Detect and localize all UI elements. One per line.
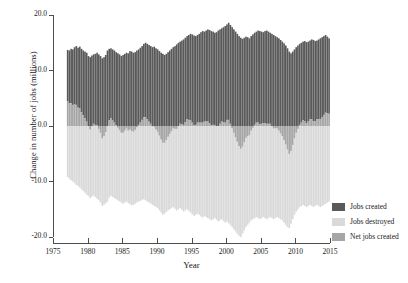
bar-jobs-created: [257, 31, 259, 123]
bar-jobs-destroyed: [155, 126, 157, 207]
bar-jobs-destroyed: [273, 126, 275, 219]
bar-jobs-created: [271, 34, 273, 126]
x-tick-label: 1980: [75, 247, 101, 256]
bar-jobs-destroyed: [119, 126, 121, 201]
bar-jobs-created: [143, 44, 145, 117]
y-tick-label-wrap: -10.0: [0, 177, 47, 187]
bar-net-jobs-created: [268, 124, 270, 126]
bar-jobs-destroyed: [79, 126, 81, 188]
bar-jobs-created: [301, 43, 303, 123]
bar-net-jobs-created: [166, 126, 168, 140]
bar-jobs-created: [69, 51, 71, 104]
bar-jobs-destroyed: [301, 126, 303, 206]
bar-net-jobs-created: [202, 123, 204, 126]
bar-jobs-destroyed: [304, 126, 306, 206]
bar-net-jobs-created: [328, 114, 330, 126]
legend-swatch: [332, 203, 345, 211]
bar-jobs-destroyed: [197, 126, 199, 214]
bar-jobs-created: [186, 36, 188, 119]
bar-jobs-destroyed: [230, 126, 232, 225]
bar-jobs-created: [311, 39, 313, 119]
bar-jobs-created: [86, 53, 88, 122]
bar-jobs-created: [240, 38, 242, 126]
bar-jobs-created: [254, 33, 256, 125]
bar-net-jobs-created: [294, 126, 296, 138]
bar-jobs-destroyed: [264, 126, 266, 218]
bar-net-jobs-created: [311, 119, 313, 126]
bar-net-jobs-created: [108, 120, 110, 126]
bar-jobs-destroyed: [256, 126, 258, 217]
bar-jobs-created: [157, 49, 159, 126]
bar-net-jobs-created: [192, 123, 194, 126]
bar-net-jobs-created: [321, 117, 323, 126]
bar-net-jobs-created: [266, 124, 268, 126]
bar-jobs-destroyed: [145, 126, 147, 200]
plot-area: [53, 15, 330, 237]
bar-jobs-destroyed: [138, 126, 140, 201]
bar-jobs-destroyed: [237, 126, 239, 234]
bar-jobs-destroyed: [127, 126, 129, 203]
bar-jobs-destroyed: [275, 126, 277, 218]
bar-jobs-created: [159, 51, 161, 126]
bar-net-jobs-created: [167, 126, 169, 137]
bar-net-jobs-created: [250, 126, 252, 130]
bar-jobs-created: [221, 28, 223, 121]
bar-jobs-destroyed: [174, 126, 176, 209]
bar-jobs-created: [249, 38, 251, 126]
bar-net-jobs-created: [209, 123, 211, 126]
bar-jobs-created: [224, 26, 226, 123]
bar-net-jobs-created: [224, 123, 226, 126]
x-tick-label: 2015: [317, 247, 343, 256]
bar-jobs-created: [81, 49, 83, 112]
bar-jobs-destroyed: [114, 126, 116, 198]
bar-jobs-destroyed: [96, 126, 98, 199]
bar-jobs-destroyed: [221, 126, 223, 219]
bar-jobs-created: [304, 41, 306, 121]
bar-jobs-destroyed: [250, 126, 252, 220]
bar-net-jobs-created: [262, 123, 264, 126]
bar-jobs-created: [259, 31, 261, 124]
bar-jobs-created: [282, 42, 284, 126]
bar-net-jobs-created: [143, 117, 145, 126]
bar-jobs-destroyed: [316, 126, 318, 205]
bar-jobs-destroyed: [67, 126, 69, 177]
bar-jobs-destroyed: [192, 126, 194, 214]
bar-jobs-destroyed: [124, 126, 126, 203]
bar-jobs-destroyed: [233, 126, 235, 229]
bar-net-jobs-created: [247, 126, 249, 136]
bar-net-jobs-created: [134, 126, 136, 130]
bar-jobs-created: [88, 56, 90, 126]
bar-jobs-created: [275, 36, 277, 126]
bar-jobs-created: [207, 29, 209, 121]
bar-jobs-created: [166, 54, 168, 126]
bar-jobs-created: [171, 49, 173, 126]
bar-jobs-destroyed: [134, 126, 136, 204]
bar-net-jobs-created: [96, 125, 98, 126]
legend-item: Net jobs created: [332, 230, 408, 243]
bar-net-jobs-created: [302, 120, 304, 126]
bar-jobs-destroyed: [122, 126, 124, 204]
bar-net-jobs-created: [136, 126, 138, 127]
bar-net-jobs-created: [89, 126, 91, 129]
bar-net-jobs-created: [77, 108, 79, 126]
bar-jobs-destroyed: [261, 126, 263, 218]
bar-jobs-destroyed: [276, 126, 278, 217]
y-tick-label-wrap: 0.0: [0, 121, 47, 131]
bar-net-jobs-created: [228, 120, 230, 126]
bar-net-jobs-created: [245, 126, 247, 138]
bar-jobs-created: [136, 51, 138, 126]
bar-jobs-destroyed: [157, 126, 159, 208]
x-tick-label: 1975: [40, 247, 66, 256]
bar-net-jobs-created: [174, 126, 176, 129]
bar-jobs-created: [74, 47, 76, 104]
bar-net-jobs-created: [287, 126, 289, 149]
bar-jobs-created: [325, 35, 327, 113]
bar-net-jobs-created: [207, 122, 209, 126]
bar-jobs-created: [93, 54, 95, 123]
x-axis-line: [53, 243, 330, 244]
bar-net-jobs-created: [181, 124, 183, 126]
bar-net-jobs-created: [243, 126, 245, 142]
bar-net-jobs-created: [101, 126, 103, 138]
bar-net-jobs-created: [205, 122, 207, 126]
bar-jobs-destroyed: [283, 126, 285, 223]
